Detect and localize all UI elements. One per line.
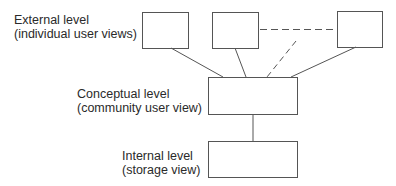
connector-external-3: [291, 47, 356, 77]
conceptual-level-label: Conceptual level (community user view): [77, 87, 202, 115]
internal-level-box: [209, 142, 298, 178]
external-level-label: External level (individual user views): [14, 13, 137, 41]
internal-level-subtitle: (storage view): [122, 163, 201, 177]
external-view-box-1: [143, 13, 189, 49]
conceptual-level-subtitle: (community user view): [77, 101, 202, 115]
conceptual-level-box: [209, 78, 298, 115]
conceptual-level-title: Conceptual level: [77, 87, 202, 101]
internal-level-label: Internal level (storage view): [122, 149, 201, 177]
internal-level-title: Internal level: [122, 149, 201, 163]
external-view-box-2: [213, 13, 259, 49]
external-level-subtitle: (individual user views): [14, 27, 137, 41]
external-view-box-3: [338, 12, 383, 48]
dashed-connector-diagonal: [267, 41, 296, 77]
external-level-title: External level: [14, 13, 137, 27]
connector-external-2: [235, 48, 246, 77]
connector-external-1: [171, 48, 223, 77]
